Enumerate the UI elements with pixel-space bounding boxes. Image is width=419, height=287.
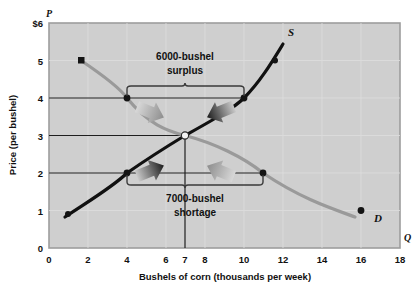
supply-curve-label: S (288, 26, 294, 38)
y-axis-letter: P (46, 8, 53, 19)
x-tick-16: 16 (356, 254, 367, 265)
y-tick-5: 5 (38, 56, 44, 67)
x-tick-6: 6 (163, 254, 168, 265)
surplus-label-line2: surplus (167, 65, 204, 76)
x-tick-10: 10 (239, 254, 250, 265)
demand-point-q16-p1 (358, 207, 365, 214)
surplus-label-line1: 6000-bushel (156, 51, 214, 62)
y-tick-3: 3 (38, 131, 43, 142)
x-tick-8: 8 (202, 254, 207, 265)
y-axis-title: Price (per bushel) (7, 95, 18, 175)
x-axis-letter: Q (404, 232, 411, 243)
y-tick-2: 2 (38, 168, 43, 179)
supply-demand-chart: 6000-bushel surplus 7000-bushel shortage… (0, 0, 419, 287)
equilibrium-point (181, 132, 188, 139)
x-axis-title: Bushels of corn (thousands per week) (139, 271, 311, 282)
demand-point-q2-p5 (78, 57, 85, 64)
x-tick-0: 0 (46, 254, 51, 265)
demand-curve-label: D (373, 212, 382, 224)
shortage-label-line1: 7000-bushel (166, 193, 224, 204)
x-tick-4: 4 (124, 254, 130, 265)
shortage-label-line2: shortage (174, 207, 217, 218)
x-tick-18: 18 (395, 254, 406, 265)
y-tick-4: 4 (38, 93, 44, 104)
x-tick-7: 7 (182, 254, 187, 265)
y-tick-0: 0 (38, 243, 43, 254)
supply-demand-figure: 6000-bushel surplus 7000-bushel shortage… (0, 0, 419, 287)
x-tick-2: 2 (85, 254, 90, 265)
y-tick-1: 1 (38, 206, 44, 217)
y-tick-6: $6 (32, 18, 43, 29)
supply-point-q1-p1 (65, 211, 71, 217)
supply-point-q12-p5 (272, 58, 278, 64)
x-tick-12: 12 (278, 254, 289, 265)
x-tick-14: 14 (317, 254, 328, 265)
